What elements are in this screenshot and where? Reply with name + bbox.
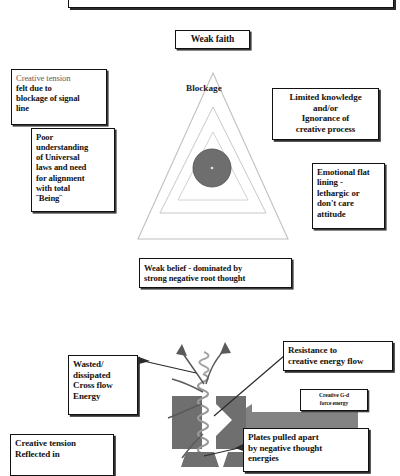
- gd-force-line-1: Creative G-d: [305, 392, 363, 400]
- emotional-flat-line-3: lethargic or: [317, 188, 380, 198]
- limited-knowledge-line-2: and/or: [277, 103, 374, 114]
- creative-tension-line-3: blockage of signal: [16, 93, 102, 103]
- creative-reflected-line-1: Creative tension: [15, 438, 109, 449]
- wasted-dissipated-energy-box[interactable]: Wasted/ dissipated Cross flow Energy: [68, 355, 138, 415]
- poor-understanding-line-7: ˝Being˝: [36, 193, 110, 203]
- limited-knowledge-line-1: Limited knowledge: [277, 92, 374, 103]
- poor-understanding-box[interactable]: Poor understanding of Universal laws and…: [31, 128, 115, 212]
- weak-belief-line-2: strong negative root thought: [144, 273, 287, 283]
- weak-faith-box[interactable]: Weak faith: [175, 30, 250, 49]
- creative-tension-line-4: line: [16, 103, 102, 113]
- left-plate: [172, 396, 202, 449]
- limited-knowledge-line-4: creative process: [277, 124, 374, 135]
- emotional-flat-line-1: Emotional flat: [317, 167, 380, 177]
- resistance-to-creative-energy-flow-box[interactable]: Resistance to creative energy flow: [283, 341, 393, 371]
- resistance-line-1: Resistance to: [288, 345, 388, 356]
- resistance-line-2: creative energy flow: [288, 356, 388, 367]
- poor-understanding-line-6: with total: [36, 183, 110, 193]
- wasted-line-4: Energy: [73, 391, 133, 402]
- top-cut-off-box: [68, 0, 394, 8]
- limited-knowledge-line-3: Ignorance of: [277, 113, 374, 124]
- gd-force-line-2: force energy: [305, 400, 363, 408]
- vertical-coil-upper: [200, 352, 209, 373]
- wasted-line-2: dissipated: [73, 370, 133, 381]
- leader-wasted-head: [139, 357, 150, 364]
- leader-wasted: [139, 360, 196, 373]
- emotional-flat-line-4: don't care: [317, 198, 380, 208]
- creative-gd-force-energy-box[interactable]: Creative G-d force energy: [300, 389, 368, 411]
- creative-reflected-line-2: Reflected in: [15, 449, 109, 460]
- arrowhead-right: [220, 342, 231, 354]
- emotional-flat-lining-box[interactable]: Emotional flat lining - lethargic or don…: [312, 163, 385, 229]
- creative-tension-line-1: Creative tension: [16, 73, 102, 83]
- emotional-flat-line-5: attitude: [317, 209, 380, 219]
- plates-pulled-apart-box[interactable]: Plates pulled apart by negative thought …: [243, 428, 369, 472]
- wasted-line-3: Cross flow: [73, 380, 133, 391]
- poor-understanding-line-2: understanding: [36, 142, 110, 152]
- poor-understanding-line-5: for alignment: [36, 173, 110, 183]
- blockage-label: Blockage: [186, 83, 222, 93]
- weak-belief-line-1: Weak belief - dominated by: [144, 263, 287, 273]
- wasted-line-1: Wasted/: [73, 359, 133, 370]
- plates-line-3: energies: [248, 453, 364, 464]
- creative-tension-box[interactable]: Creative tension felt due to blockage of…: [11, 69, 107, 125]
- weak-belief-box[interactable]: Weak belief - dominated by strong negati…: [139, 258, 292, 288]
- nested-triangles-group: [138, 73, 288, 239]
- creative-tension-line-2: felt due to: [16, 83, 102, 93]
- arrowhead-left: [176, 344, 187, 356]
- emotional-flat-line-2: lining -: [317, 177, 380, 187]
- creative-tension-reflected-box[interactable]: Creative tension Reflected in: [10, 434, 114, 476]
- poor-understanding-line-1: Poor: [36, 132, 110, 142]
- poor-understanding-line-3: of Universal: [36, 152, 110, 162]
- weak-faith-label: Weak faith: [191, 34, 235, 45]
- blockage-circle-center-dot: [211, 167, 214, 170]
- limited-knowledge-box[interactable]: Limited knowledge and/or Ignorance of cr…: [272, 88, 379, 140]
- poor-understanding-line-4: laws and need: [36, 162, 110, 172]
- plates-line-1: Plates pulled apart: [248, 432, 364, 443]
- plates-line-2: by negative thought: [248, 443, 364, 454]
